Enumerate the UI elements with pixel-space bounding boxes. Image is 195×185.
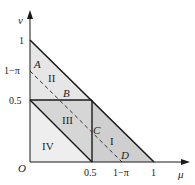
y-axis-label: v bbox=[18, 14, 23, 26]
y-tick-1: 1 bbox=[19, 35, 24, 46]
y-tick-1-minus-pi: 1−π bbox=[4, 65, 20, 76]
x-tick-0-5: 0.5 bbox=[84, 167, 97, 178]
point-D: D bbox=[120, 149, 129, 161]
x-axis-arrow-icon bbox=[181, 159, 190, 165]
point-C: C bbox=[93, 124, 101, 136]
point-A: A bbox=[33, 58, 41, 70]
region-IV-label: IV bbox=[42, 140, 54, 152]
y-axis-arrow-icon bbox=[27, 10, 33, 19]
origin-label: O bbox=[18, 162, 26, 174]
y-tick-0-5: 0.5 bbox=[9, 95, 22, 106]
region-diagram: v μ O 1 1−π 0.5 0.5 1−π 1 A B C D II III… bbox=[0, 0, 195, 185]
point-B: B bbox=[63, 87, 70, 99]
region-I-label: I bbox=[110, 135, 114, 147]
x-tick-1: 1 bbox=[151, 167, 156, 178]
x-axis-label: μ bbox=[177, 168, 184, 180]
region-II-label: II bbox=[48, 72, 56, 84]
region-III-label: III bbox=[62, 114, 73, 126]
x-tick-1-minus-pi: 1−π bbox=[113, 167, 129, 178]
